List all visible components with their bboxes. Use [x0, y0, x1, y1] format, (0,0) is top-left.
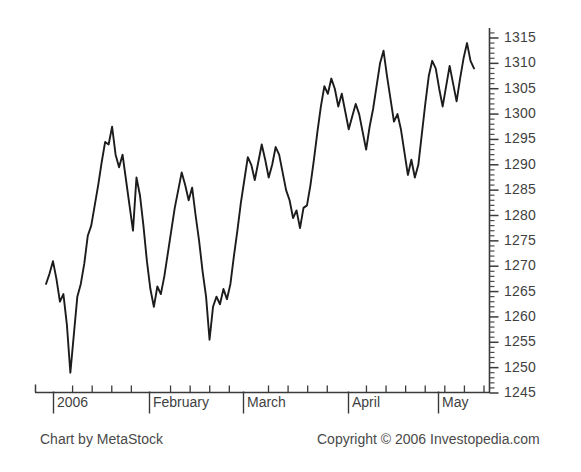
y-axis-tick-label: 1270: [504, 257, 536, 273]
y-axis-tick-label: 1280: [504, 207, 536, 223]
axis-lines: [35, 28, 490, 393]
stock-price-chart: 1315131013051300129512901285128012751270…: [0, 0, 581, 472]
y-axis-tick-label: 1315: [504, 29, 536, 45]
x-axis-month-label: May: [442, 394, 468, 410]
x-axis-month-label: February: [153, 394, 209, 410]
y-axis-tick-label: 1255: [504, 333, 536, 349]
month-divider-lines: [54, 392, 439, 414]
y-axis-tick-label: 1300: [504, 105, 536, 121]
y-axis-tick-label: 1275: [504, 232, 536, 248]
y-axis-tick-label: 1245: [504, 384, 536, 400]
y-axis-tick-label: 1290: [504, 156, 536, 172]
y-axis-tick-label: 1305: [504, 80, 536, 96]
y-axis-tick-label: 1310: [504, 54, 536, 70]
x-axis-month-label: 2006: [57, 394, 88, 410]
y-axis-ticks: [490, 33, 499, 393]
x-axis-ticks: [36, 385, 485, 393]
y-axis-tick-label: 1265: [504, 283, 536, 299]
x-axis-month-label: April: [352, 394, 380, 410]
copyright-label: Copyright © 2006 Investopedia.com: [317, 431, 540, 447]
price-line-series: [46, 43, 474, 373]
chart-credit-label: Chart by MetaStock: [40, 431, 163, 447]
y-axis-tick-label: 1260: [504, 308, 536, 324]
y-axis-tick-label: 1285: [504, 181, 536, 197]
y-axis-tick-label: 1295: [504, 130, 536, 146]
x-axis-month-label: March: [247, 394, 286, 410]
y-axis-tick-label: 1250: [504, 359, 536, 375]
